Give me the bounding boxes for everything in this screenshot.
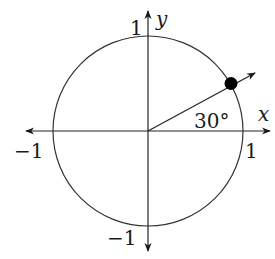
angle-label: 30° (194, 109, 229, 133)
y-axis-label: y (155, 7, 168, 31)
x-pos-tick-label: 1 (245, 139, 258, 163)
x-neg-tick-label: −1 (14, 139, 43, 163)
y-neg-tick-label: −1 (107, 226, 136, 250)
terminal-point (225, 77, 238, 90)
unit-circle-diagram: 30° x y 1 −1 1 −1 (0, 0, 275, 259)
x-axis-label: x (258, 102, 269, 126)
y-pos-tick-label: 1 (130, 16, 143, 40)
